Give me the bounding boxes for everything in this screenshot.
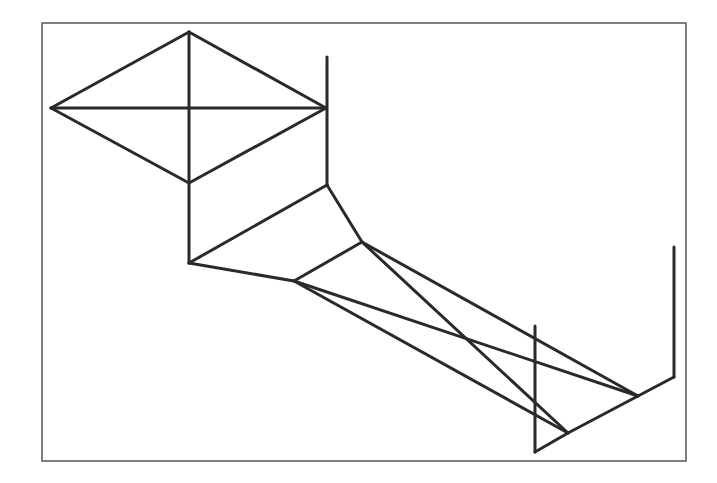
diagram-segments <box>51 32 674 452</box>
line-diagram <box>0 0 717 483</box>
segment-7 <box>189 185 327 263</box>
segment-17 <box>568 396 638 433</box>
segment-14 <box>294 281 568 433</box>
segment-8 <box>327 185 362 242</box>
segment-0 <box>51 32 189 108</box>
segment-2 <box>51 108 189 183</box>
segment-10 <box>189 263 294 281</box>
segment-16 <box>535 433 568 452</box>
segment-9 <box>294 242 362 281</box>
segment-1 <box>189 32 326 108</box>
segment-18 <box>638 377 674 396</box>
segment-3 <box>189 108 326 183</box>
